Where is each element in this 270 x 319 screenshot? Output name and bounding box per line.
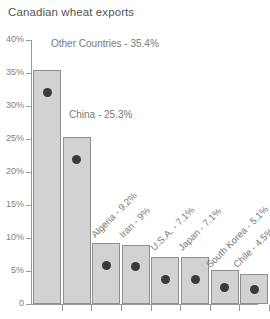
y-axis-tick-label: 20% bbox=[6, 167, 24, 176]
y-axis-tick-label-wrap: 25% bbox=[0, 134, 24, 143]
x-axis-tick bbox=[62, 305, 63, 311]
bar bbox=[33, 70, 61, 304]
y-axis-tick-label-wrap: 10% bbox=[0, 233, 24, 242]
chart-canvas: Canadian wheat exports 40%35%30%25%20%15… bbox=[0, 0, 270, 319]
y-axis-tick-label-wrap: 40% bbox=[0, 35, 24, 44]
data-point-marker bbox=[72, 155, 81, 164]
bar bbox=[122, 245, 150, 304]
y-axis-tick-label-wrap: 0 bbox=[0, 299, 24, 308]
data-point-marker bbox=[191, 275, 200, 284]
y-axis-tick-label: 5% bbox=[11, 266, 24, 275]
data-point-marker bbox=[43, 88, 52, 97]
data-point-marker bbox=[161, 275, 170, 284]
x-axis-tick bbox=[180, 305, 181, 311]
y-axis-tick-label: 10% bbox=[6, 233, 24, 242]
annotation-other-countries: Other Countries - 35.4% bbox=[51, 38, 159, 49]
x-axis-tick bbox=[91, 305, 92, 311]
y-axis-tick-label: 25% bbox=[6, 134, 24, 143]
y-axis-tick-label-wrap: 5% bbox=[0, 266, 24, 275]
y-axis-tick-label: 0 bbox=[19, 299, 24, 308]
y-axis-tick-label: 40% bbox=[6, 35, 24, 44]
data-point-marker bbox=[220, 283, 229, 292]
y-axis-tick-label-wrap: 20% bbox=[0, 167, 24, 176]
x-axis-tick bbox=[121, 305, 122, 311]
y-axis-line bbox=[31, 40, 32, 305]
y-axis-tick-label-wrap: 30% bbox=[0, 101, 24, 110]
y-axis-tick-label: 35% bbox=[6, 68, 24, 77]
y-axis-tick-label-wrap: 15% bbox=[0, 200, 24, 209]
x-axis-tick bbox=[151, 305, 152, 311]
x-axis-tick bbox=[269, 305, 270, 311]
x-axis-tick bbox=[210, 305, 211, 311]
data-point-marker bbox=[250, 285, 259, 294]
bar bbox=[92, 243, 120, 304]
x-axis-line bbox=[31, 304, 258, 305]
y-axis-tick-label: 15% bbox=[6, 200, 24, 209]
chart-title: Canadian wheat exports bbox=[8, 6, 134, 18]
y-axis-tick-label-wrap: 35% bbox=[0, 68, 24, 77]
x-axis-tick bbox=[239, 305, 240, 311]
y-axis-tick-label: 30% bbox=[6, 101, 24, 110]
annotation-china: China - 25.3% bbox=[69, 109, 132, 120]
data-point-marker bbox=[102, 261, 111, 270]
